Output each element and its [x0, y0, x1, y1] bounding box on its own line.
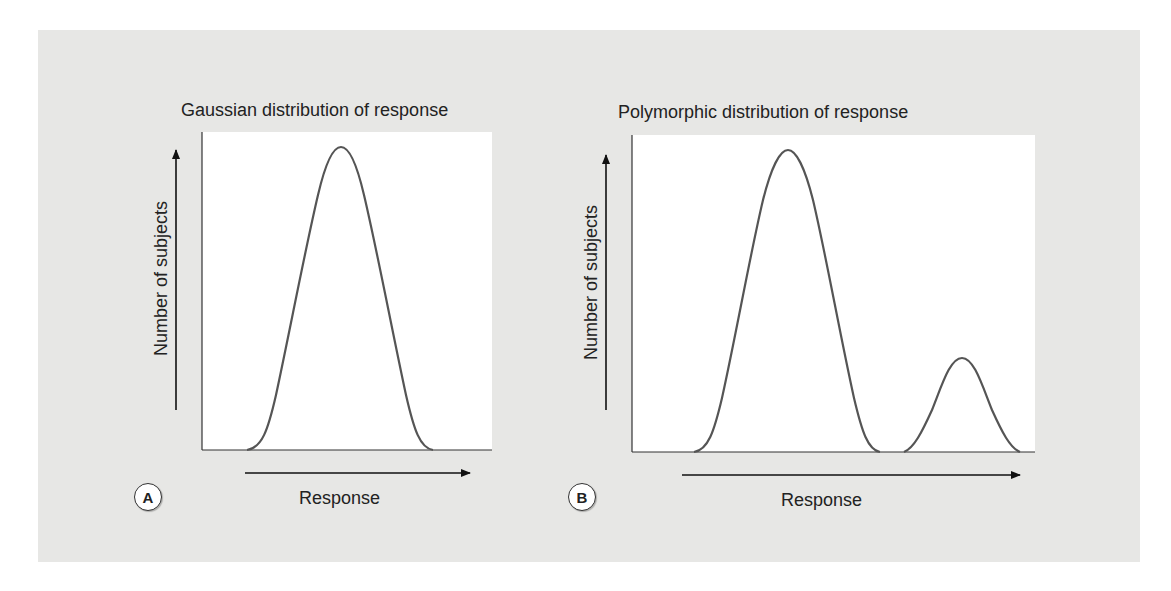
panel-b-plot — [606, 135, 1035, 475]
panel-a-y-axis-label: Number of subjects — [151, 194, 172, 364]
panel-b-badge: B — [568, 483, 596, 511]
panel-b-y-axis-label: Number of subjects — [581, 198, 602, 368]
panel-a-badge: A — [134, 483, 162, 511]
panel-a-plot-area — [202, 132, 492, 450]
figure: Gaussian distribution of response Number… — [0, 0, 1171, 591]
panel-a-title: Gaussian distribution of response — [181, 100, 448, 121]
panel-a-x-axis-label: Response — [299, 488, 380, 509]
panel-a-plot — [176, 132, 492, 473]
panel-b-x-axis-label: Response — [781, 490, 862, 511]
panel-b-title: Polymorphic distribution of response — [618, 102, 908, 123]
